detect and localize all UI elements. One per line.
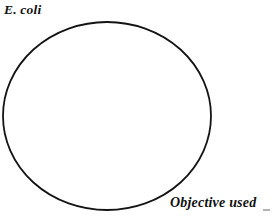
objective-label: Objective used (170, 196, 256, 210)
figure-background (0, 0, 272, 217)
microscope-field-figure: E. coli Objective used (0, 0, 272, 217)
field-of-view-svg (0, 0, 272, 217)
corner-artifact-mark (263, 209, 270, 211)
specimen-label: E. coli (4, 3, 41, 17)
